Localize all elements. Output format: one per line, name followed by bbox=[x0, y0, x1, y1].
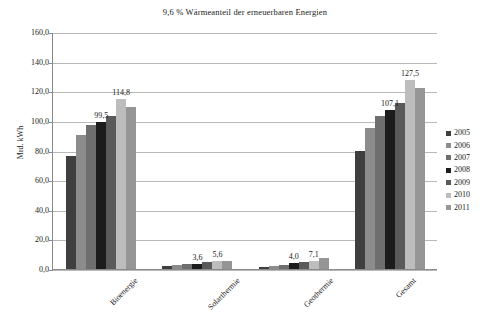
legend-label: 2010 bbox=[454, 191, 470, 199]
legend-label: 2008 bbox=[454, 166, 470, 174]
data-label: 5,6 bbox=[197, 250, 237, 259]
y-axis-title: Mrd. kWh bbox=[16, 103, 25, 183]
bar[interactable] bbox=[375, 116, 385, 269]
legend-swatch-icon bbox=[446, 168, 451, 173]
x-axis-category-label: Solarthermie bbox=[206, 276, 242, 312]
legend-label: 2007 bbox=[454, 154, 470, 162]
x-axis-category-label: Geothermie bbox=[302, 276, 335, 309]
legend-item[interactable]: 2006 bbox=[446, 139, 490, 151]
bar[interactable] bbox=[279, 265, 289, 269]
bar[interactable] bbox=[202, 262, 212, 269]
legend-item[interactable]: 2005 bbox=[446, 127, 490, 139]
data-label: 7,1 bbox=[294, 250, 334, 259]
y-axis-tick-label: 100,0 bbox=[5, 117, 49, 126]
x-axis-category-label: Bioenergie bbox=[108, 276, 139, 307]
legend-swatch-icon bbox=[446, 205, 451, 210]
y-axis-tick-label: 140,0 bbox=[5, 58, 49, 67]
chart-root: 9,6 % Wärmeanteil der erneuerbaren Energ… bbox=[0, 0, 490, 334]
bar[interactable] bbox=[319, 258, 329, 269]
chart-legend: 2005200620072008200920102011 bbox=[446, 127, 490, 214]
bar[interactable] bbox=[96, 122, 106, 269]
plot-area: 99,5114,83,65,64,07,1107,1127,5 bbox=[52, 33, 437, 270]
legend-item[interactable]: 2009 bbox=[446, 177, 490, 189]
bar[interactable] bbox=[299, 262, 309, 269]
bar[interactable] bbox=[395, 103, 405, 269]
legend-swatch-icon bbox=[446, 193, 451, 198]
y-axis-tick bbox=[49, 270, 53, 271]
legend-item[interactable]: 2008 bbox=[446, 164, 490, 176]
y-axis-tick-label: 40,0 bbox=[5, 206, 49, 215]
bar[interactable] bbox=[126, 107, 136, 269]
y-axis-tick bbox=[49, 122, 53, 123]
bar[interactable] bbox=[76, 135, 86, 269]
gridline bbox=[53, 270, 437, 271]
legend-label: 2009 bbox=[454, 179, 470, 187]
bar[interactable] bbox=[192, 264, 202, 269]
bar[interactable] bbox=[289, 263, 299, 269]
bar[interactable] bbox=[355, 151, 365, 270]
data-label: 114,8 bbox=[101, 88, 141, 97]
bar-group bbox=[259, 33, 329, 269]
y-axis-tick bbox=[49, 63, 53, 64]
bar[interactable] bbox=[162, 266, 172, 269]
bar[interactable] bbox=[212, 261, 222, 269]
data-label: 107,1 bbox=[370, 99, 410, 108]
y-axis-tick bbox=[49, 92, 53, 93]
bar[interactable] bbox=[66, 156, 76, 269]
bar-group bbox=[66, 33, 136, 269]
bar[interactable] bbox=[259, 267, 269, 269]
bar[interactable] bbox=[222, 261, 232, 269]
legend-swatch-icon bbox=[446, 180, 451, 185]
y-axis-tick bbox=[49, 152, 53, 153]
bar[interactable] bbox=[365, 128, 375, 269]
y-axis-tick-label: 0,0 bbox=[5, 265, 49, 274]
y-axis-tick bbox=[49, 33, 53, 34]
legend-label: 2006 bbox=[454, 142, 470, 150]
legend-swatch-icon bbox=[446, 143, 451, 148]
legend-item[interactable]: 2010 bbox=[446, 189, 490, 201]
bar[interactable] bbox=[172, 265, 182, 269]
bar-group bbox=[162, 33, 232, 269]
bar[interactable] bbox=[415, 88, 425, 269]
legend-item[interactable]: 2007 bbox=[446, 152, 490, 164]
legend-label: 2011 bbox=[454, 204, 470, 212]
x-axis-category-label: Gesamt bbox=[394, 276, 418, 300]
y-axis-tick bbox=[49, 211, 53, 212]
y-axis-tick-label: 160,0 bbox=[5, 28, 49, 37]
data-label: 127,5 bbox=[390, 69, 430, 78]
legend-label: 2005 bbox=[454, 129, 470, 137]
y-axis-tick-label: 80,0 bbox=[5, 147, 49, 156]
bar[interactable] bbox=[269, 266, 279, 269]
bar[interactable] bbox=[86, 125, 96, 269]
data-label: 99,5 bbox=[81, 111, 121, 120]
legend-swatch-icon bbox=[446, 155, 451, 160]
y-axis-tick-label: 60,0 bbox=[5, 176, 49, 185]
bar[interactable] bbox=[116, 99, 126, 269]
bar[interactable] bbox=[405, 80, 415, 269]
y-axis-tick-label: 20,0 bbox=[5, 235, 49, 244]
legend-item[interactable]: 2011 bbox=[446, 201, 490, 213]
chart-title: 9,6 % Wärmeanteil der erneuerbaren Energ… bbox=[0, 7, 490, 17]
y-axis-tick bbox=[49, 240, 53, 241]
legend-swatch-icon bbox=[446, 131, 451, 136]
y-axis-tick-label: 120,0 bbox=[5, 87, 49, 96]
y-axis-tick bbox=[49, 181, 53, 182]
bar[interactable] bbox=[106, 116, 116, 269]
bar[interactable] bbox=[309, 261, 319, 269]
bar[interactable] bbox=[385, 110, 395, 269]
bar[interactable] bbox=[182, 264, 192, 269]
